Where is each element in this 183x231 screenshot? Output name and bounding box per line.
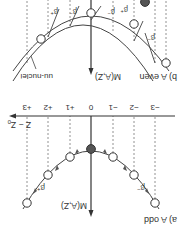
svg-text:β+: β+ bbox=[120, 5, 128, 15]
panel-a-beta-minus-label: β− bbox=[136, 183, 145, 193]
panel-a-tick-labels: −3 −2 −1 0 +1 +2 +3 bbox=[22, 103, 160, 112]
panel-a-beta-plus-label: β+ bbox=[36, 183, 45, 193]
panel-a-y-arrow-icon bbox=[89, 210, 94, 217]
svg-text:−3: −3 bbox=[150, 103, 160, 112]
svg-text:0: 0 bbox=[88, 103, 93, 112]
svg-text:+3: +3 bbox=[22, 103, 32, 112]
svg-text:−2: −2 bbox=[129, 103, 139, 112]
nuclear-mass-parabola-figure: a) A odd M(A,Z) bbox=[0, 0, 183, 231]
panel-b-decay-arrows bbox=[48, 6, 155, 63]
panel-b-uu-label: uu-nuclei bbox=[20, 72, 53, 81]
panel-a-x-arrow-icon bbox=[9, 114, 16, 119]
rotated-figure-group: a) A odd M(A,Z) bbox=[7, 0, 177, 225]
svg-text:+2: +2 bbox=[43, 103, 53, 112]
svg-text:β+: β+ bbox=[50, 7, 58, 17]
svg-text:β−: β− bbox=[147, 33, 155, 43]
panel-b-dashed-lines bbox=[27, 0, 166, 63]
svg-text:β−: β− bbox=[69, 7, 77, 17]
panel-b-label: b) A even bbox=[139, 72, 177, 82]
svg-text:−1: −1 bbox=[108, 103, 118, 112]
panel-a-x-label: Z − Z0 bbox=[7, 119, 31, 130]
panel-b-y-label: M(A,Z) bbox=[95, 72, 121, 82]
panel-a-y-label: M(A,Z) bbox=[61, 201, 87, 211]
svg-text:β−: β− bbox=[107, 7, 115, 17]
svg-text:+1: +1 bbox=[65, 103, 75, 112]
panel-a-label: a) A odd bbox=[144, 215, 177, 225]
panel-b-uu-pointer bbox=[31, 56, 36, 69]
panel-b-y-arrow-icon bbox=[89, 68, 94, 75]
